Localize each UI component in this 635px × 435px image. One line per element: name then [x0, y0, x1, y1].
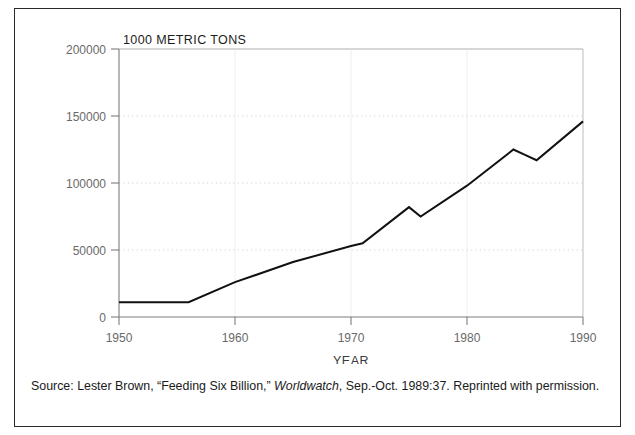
figure-frame: 200000 150000 100000 50000 0 1950 1960 1…: [14, 8, 621, 427]
x-tick-label-1950: 1950: [106, 331, 133, 345]
x-axis-label: YEAR: [333, 354, 369, 364]
y-tick-label-100000: 100000: [66, 177, 106, 191]
x-tick-label-1980: 1980: [454, 331, 481, 345]
caption-prefix: Source: Lester Brown, “Feeding Six Billi…: [31, 379, 274, 393]
caption-suffix: , Sep.-Oct. 1989:37. Reprinted with perm…: [339, 379, 599, 393]
chart-region: 200000 150000 100000 50000 0 1950 1960 1…: [15, 9, 620, 364]
caption-source-title: Worldwatch: [274, 379, 339, 393]
x-tick-label-1970: 1970: [338, 331, 365, 345]
y-tick-label-150000: 150000: [66, 110, 106, 124]
line-chart: 200000 150000 100000 50000 0 1950 1960 1…: [15, 9, 620, 364]
y-tick-label-50000: 50000: [73, 244, 107, 258]
y-tick-label-200000: 200000: [66, 43, 106, 57]
y-axis-ticks: [111, 49, 119, 317]
chart-title: 1000 METRIC TONS: [123, 33, 246, 47]
x-tick-label-1960: 1960: [222, 331, 249, 345]
figure-caption: Source: Lester Brown, “Feeding Six Billi…: [31, 379, 603, 394]
x-tick-label-1990: 1990: [570, 331, 597, 345]
y-tick-label-0: 0: [99, 311, 106, 325]
x-axis-ticks: [119, 317, 583, 325]
